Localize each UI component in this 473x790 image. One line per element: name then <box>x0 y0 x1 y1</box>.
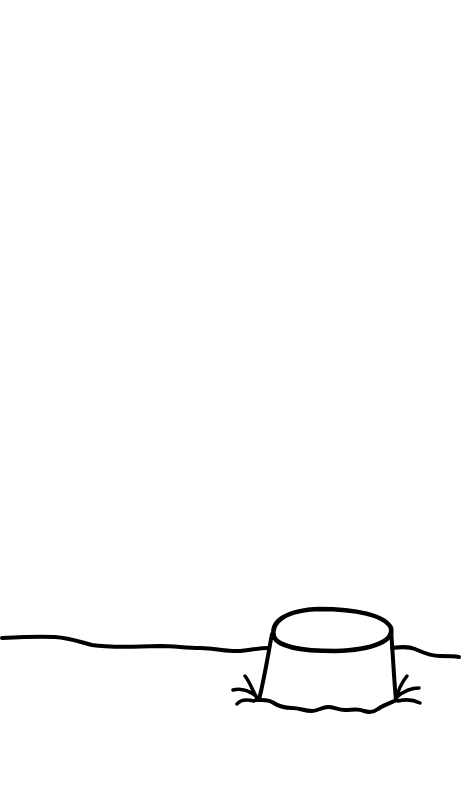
grass-tuft-left <box>233 676 258 704</box>
ground-line-left <box>2 637 268 652</box>
drawing-canvas: tree stump in ground <box>0 0 473 790</box>
ground-line-right <box>392 647 459 657</box>
stump-right-side <box>391 630 396 700</box>
grass-tuft-right <box>396 676 420 703</box>
stump-illustration <box>0 0 473 790</box>
stump-top-ellipse <box>273 609 391 651</box>
stump-base <box>256 700 397 712</box>
stump-left-side <box>259 634 272 700</box>
